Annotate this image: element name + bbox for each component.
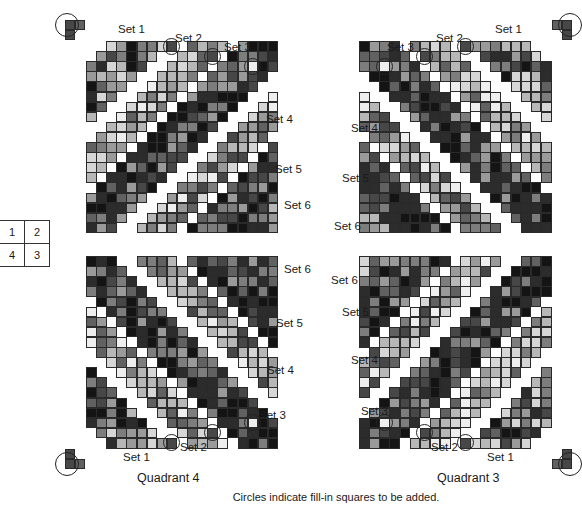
- matrix-square: [137, 182, 148, 193]
- matrix-square: [511, 428, 522, 439]
- matrix-square: [96, 223, 107, 234]
- matrix-square: [369, 182, 380, 193]
- matrix-square: [531, 377, 542, 388]
- matrix-square: [521, 337, 532, 348]
- matrix-square: [420, 327, 431, 338]
- matrix-square: [460, 223, 471, 234]
- matrix-square: [258, 347, 269, 358]
- matrix-square: [480, 92, 491, 103]
- matrix-square: [369, 367, 380, 378]
- set-label: Set 1: [118, 24, 145, 36]
- matrix-square: [511, 162, 522, 173]
- matrix-square: [410, 307, 421, 318]
- matrix-square: [157, 71, 168, 82]
- matrix-square: [157, 152, 168, 163]
- matrix-square: [379, 347, 390, 358]
- matrix-square: [147, 81, 158, 92]
- matrix-square: [268, 438, 279, 449]
- matrix-square: [541, 307, 552, 318]
- matrix-square: [187, 428, 198, 439]
- matrix-square: [197, 81, 208, 92]
- matrix-square: [369, 438, 380, 449]
- matrix-square: [430, 256, 441, 267]
- matrix-square: [217, 61, 228, 72]
- matrix-square: [531, 387, 542, 398]
- matrix-square: [430, 357, 441, 368]
- matrix-square: [430, 307, 441, 318]
- matrix-square: [157, 327, 168, 338]
- matrix-square: [106, 286, 117, 297]
- matrix-square: [470, 122, 481, 133]
- matrix-square: [359, 193, 370, 204]
- matrix-square: [369, 152, 380, 163]
- matrix-square: [147, 213, 158, 224]
- matrix-square: [359, 203, 370, 214]
- matrix-square: [389, 71, 400, 82]
- matrix-square: [238, 203, 249, 214]
- matrix-square: [369, 256, 380, 267]
- matrix-square: [389, 337, 400, 348]
- matrix-square: [541, 387, 552, 398]
- matrix-square: [227, 102, 238, 113]
- matrix-square: [106, 438, 117, 449]
- matrix-square: [238, 122, 249, 133]
- matrix-square: [137, 102, 148, 113]
- matrix-square: [258, 223, 269, 234]
- matrix-square: [268, 377, 279, 388]
- matrix-square: [531, 92, 542, 103]
- matrix-square: [541, 213, 552, 224]
- matrix-square: [410, 276, 421, 287]
- matrix-square: [490, 256, 501, 267]
- matrix-square: [531, 152, 542, 163]
- matrix-square: [480, 182, 491, 193]
- matrix-square: [541, 398, 552, 409]
- matrix-square: [86, 337, 97, 348]
- matrix-square: [258, 256, 269, 267]
- matrix-square: [187, 203, 198, 214]
- matrix-square: [531, 347, 542, 358]
- matrix-square: [238, 398, 249, 409]
- matrix-square: [177, 112, 188, 123]
- matrix-square: [400, 102, 411, 113]
- matrix-square: [248, 367, 259, 378]
- matrix-square: [410, 71, 421, 82]
- matrix-square: [187, 61, 198, 72]
- matrix-square: [96, 152, 107, 163]
- matrix-square: [126, 112, 137, 123]
- matrix-square: [96, 398, 107, 409]
- matrix-square: [248, 182, 259, 193]
- matrix-square: [207, 182, 218, 193]
- matrix-square: [379, 256, 390, 267]
- matrix-square: [268, 266, 279, 277]
- matrix-square: [137, 172, 148, 183]
- matrix-square: [187, 51, 198, 62]
- matrix-square: [470, 152, 481, 163]
- matrix-square: [116, 51, 127, 62]
- matrix-square: [258, 428, 269, 439]
- matrix-square: [268, 337, 279, 348]
- matrix-square: [511, 142, 522, 153]
- set-label: Set 6: [334, 221, 361, 233]
- matrix-square: [207, 223, 218, 234]
- matrix-square: [521, 172, 532, 183]
- matrix-square: [187, 408, 198, 419]
- matrix-square: [541, 418, 552, 429]
- matrix-square: [187, 132, 198, 143]
- matrix-square: [227, 276, 238, 287]
- matrix-square: [126, 286, 137, 297]
- matrix-square: [400, 61, 411, 72]
- matrix-square: [137, 256, 148, 267]
- matrix-square: [470, 142, 481, 153]
- matrix-square: [400, 317, 411, 328]
- matrix-square: [359, 327, 370, 338]
- matrix-square: [531, 327, 542, 338]
- matrix-square: [501, 357, 512, 368]
- matrix-square: [207, 102, 218, 113]
- matrix-square: [137, 152, 148, 163]
- matrix-square: [227, 418, 238, 429]
- matrix-square: [369, 276, 380, 287]
- matrix-square: [147, 317, 158, 328]
- matrix-square: [248, 286, 259, 297]
- matrix-square: [480, 81, 491, 92]
- matrix-square: [521, 256, 532, 267]
